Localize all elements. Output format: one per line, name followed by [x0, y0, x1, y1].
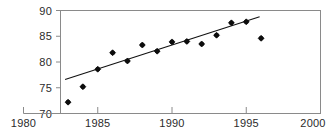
plot-frame: [61, 11, 321, 114]
x-tick-label-1985: 1985: [85, 117, 110, 129]
x-axis-group: 1980 1985 1990 1995 2000: [11, 107, 326, 129]
data-point-core: [214, 33, 218, 37]
data-point-core: [111, 51, 115, 55]
plot-frame-group: [61, 11, 321, 114]
data-point-core: [185, 39, 189, 43]
data-point-core: [155, 49, 159, 53]
data-point-core: [259, 36, 263, 40]
data-points-group: [65, 19, 264, 105]
data-point-core: [200, 42, 204, 46]
data-point-core: [229, 21, 233, 25]
y-tick-label-85: 85: [39, 30, 52, 42]
data-point-core: [81, 85, 85, 89]
chart-canvas: 90 85 80 75 70 1980 1985 1990 1995 2000: [0, 0, 329, 133]
x-tick-label-2000: 2000: [300, 117, 325, 129]
x-tick-label-1980: 1980: [11, 117, 36, 129]
data-point-core: [66, 100, 70, 104]
y-tick-label-75: 75: [39, 82, 52, 94]
y-tick-label-90: 90: [39, 5, 52, 17]
data-point-core: [125, 59, 129, 63]
trend-line: [65, 17, 260, 80]
x-tick-label-1995: 1995: [234, 117, 259, 129]
y-axis-group: 90 85 80 75 70: [39, 5, 60, 120]
data-point-core: [244, 20, 248, 24]
data-point-core: [96, 67, 100, 71]
x-tick-label-1990: 1990: [159, 117, 184, 129]
scatter-chart: 90 85 80 75 70 1980 1985 1990 1995 2000: [0, 0, 329, 133]
data-point-core: [140, 43, 144, 47]
data-point-core: [170, 40, 174, 44]
trend-line-group: [65, 17, 260, 80]
y-tick-label-80: 80: [39, 56, 52, 68]
